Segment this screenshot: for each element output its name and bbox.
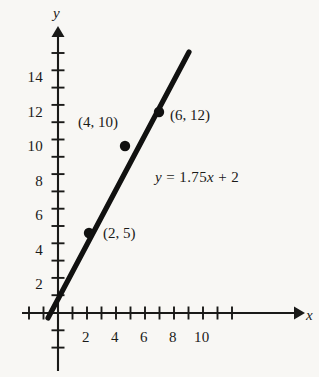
y-tick-label-4: 4 xyxy=(21,243,43,258)
x-tick-label-10: 10 xyxy=(194,330,209,345)
y-tick-label-6: 6 xyxy=(21,208,43,223)
x-tick-label-8: 8 xyxy=(169,330,177,345)
equation-constant: 2 xyxy=(231,169,239,185)
x-tick-label-6: 6 xyxy=(140,330,148,345)
x-axis-label: x xyxy=(306,308,313,323)
y-axis-arrow xyxy=(52,26,65,37)
x-tick-label-4: 4 xyxy=(111,330,119,345)
equation-coefficient: 1.75 xyxy=(179,169,207,185)
point-label-6-12: (6, 12) xyxy=(170,108,210,123)
y-tick-label-10: 10 xyxy=(21,139,43,154)
graph-figure: y x 14 12 10 8 6 4 2 2 4 6 8 10 (2, 5) (… xyxy=(0,0,319,377)
x-axis-arrow xyxy=(294,307,305,320)
axes-group xyxy=(22,26,305,371)
equation-lhs: y xyxy=(155,169,162,185)
y-tick-label-12: 12 xyxy=(21,105,43,120)
x-tick-label-2: 2 xyxy=(82,330,90,345)
y-tick-label-14: 14 xyxy=(21,70,43,85)
point-label-2-5: (2, 5) xyxy=(103,226,136,241)
equation-equals: = xyxy=(166,169,175,185)
data-point-2-5 xyxy=(84,228,94,238)
point-label-4-10: (4, 10) xyxy=(78,115,118,130)
y-tick-label-2: 2 xyxy=(21,277,43,292)
equation-plus: + xyxy=(218,169,227,185)
regression-line xyxy=(48,52,189,318)
y-axis-label: y xyxy=(53,6,60,21)
data-point-4-10 xyxy=(120,141,130,151)
y-tick-label-8: 8 xyxy=(21,174,43,189)
data-point-6-12 xyxy=(154,107,164,117)
equation-annotation: y = 1.75x + 2 xyxy=(155,170,239,185)
coordinate-plot xyxy=(0,0,319,377)
